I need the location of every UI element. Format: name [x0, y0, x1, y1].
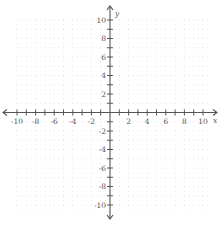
grid-dot: [44, 98, 45, 99]
grid-dot: [119, 56, 120, 57]
grid-dot: [49, 158, 50, 159]
grid-dot: [44, 140, 45, 141]
x-tick-label: 8: [182, 117, 187, 126]
grid-dot: [72, 181, 73, 182]
grid-dot: [156, 89, 157, 90]
grid-dot: [91, 177, 92, 178]
grid-dot: [68, 140, 69, 141]
grid-dot: [142, 84, 143, 85]
grid-dot: [58, 84, 59, 85]
grid-dot: [128, 167, 129, 168]
grid-dot: [119, 167, 120, 168]
grid-dot: [91, 75, 92, 76]
x-tick-label: 4: [145, 117, 150, 126]
grid-dot: [147, 24, 148, 25]
grid-dot: [165, 43, 166, 44]
grid-dot: [96, 103, 97, 104]
grid-dot: [202, 93, 203, 94]
grid-dot: [58, 140, 59, 141]
grid-dot: [100, 47, 101, 48]
grid-dot: [91, 191, 92, 192]
grid-dot: [137, 186, 138, 187]
grid-dot: [58, 131, 59, 132]
grid-dot: [147, 167, 148, 168]
grid-dot: [137, 75, 138, 76]
grid-dot: [72, 107, 73, 108]
grid-dot: [175, 135, 176, 136]
grid-dot: [40, 57, 41, 58]
grid-dot: [82, 130, 83, 131]
grid-dot: [119, 93, 120, 94]
grid-dot: [137, 89, 138, 90]
grid-dot: [184, 98, 185, 99]
grid-dot: [54, 89, 55, 90]
grid-dot: [198, 38, 199, 39]
grid-dot: [193, 33, 194, 34]
grid-dot: [156, 107, 157, 108]
grid-dot: [119, 84, 120, 85]
grid-dot: [63, 140, 64, 141]
coordinate-plane: -10-8-6-4-2246810108642-2-4-6-8-10xy: [0, 0, 222, 225]
grid-dot: [128, 47, 129, 48]
grid-dot: [72, 200, 73, 201]
grid-dot: [44, 38, 45, 39]
grid-dot: [40, 103, 41, 104]
grid-dot: [128, 103, 129, 104]
grid-dot: [82, 191, 83, 192]
grid-dot: [184, 167, 185, 168]
grid-dot: [137, 163, 138, 164]
grid-dot: [82, 19, 83, 20]
grid-dot: [202, 75, 203, 76]
grid-dot: [77, 47, 78, 48]
grid-dot: [40, 47, 41, 48]
grid-dot: [63, 163, 64, 164]
grid-dot: [193, 89, 194, 90]
grid-dot: [170, 131, 171, 132]
grid-dot: [175, 47, 176, 48]
grid-dot: [193, 130, 194, 131]
grid-dot: [82, 163, 83, 164]
grid-dot: [203, 107, 204, 108]
grid-dot: [165, 19, 166, 20]
grid-dot: [82, 186, 83, 187]
grid-dot: [44, 75, 45, 76]
grid-dot: [86, 205, 87, 206]
y-tick-label: -10: [94, 201, 106, 210]
grid-dot: [54, 158, 55, 159]
grid-dot: [142, 94, 143, 95]
grid-dot: [156, 140, 157, 141]
grid-dot: [72, 177, 73, 178]
grid-dot: [161, 140, 162, 141]
grid-dot: [119, 103, 120, 104]
grid-dot: [156, 38, 157, 39]
grid-dot: [35, 186, 36, 187]
grid-dot: [119, 66, 120, 67]
y-tick-label: 6: [101, 53, 106, 62]
grid-dot: [184, 29, 185, 30]
grid-dot: [44, 56, 45, 57]
grid-dot: [189, 84, 190, 85]
grid-dot: [54, 200, 55, 201]
grid-dot: [198, 47, 199, 48]
grid-dot: [72, 89, 73, 90]
grid-dot: [86, 149, 87, 150]
grid-dot: [193, 66, 194, 67]
grid-dot: [54, 163, 55, 164]
grid-dot: [31, 195, 32, 196]
grid-dot: [17, 200, 18, 201]
grid-dot: [35, 103, 36, 104]
grid-dot: [198, 66, 199, 67]
grid-dot: [165, 195, 166, 196]
grid-dot: [82, 56, 83, 57]
grid-dot: [193, 43, 194, 44]
grid-dot: [203, 144, 204, 145]
grid-dot: [179, 20, 180, 21]
grid-dot: [58, 29, 59, 30]
grid-dot: [68, 75, 69, 76]
grid-dot: [184, 93, 185, 94]
grid-dot: [26, 204, 27, 205]
grid-dot: [63, 56, 64, 57]
grid-dot: [31, 140, 32, 141]
grid-dot: [44, 191, 45, 192]
grid-dot: [72, 61, 73, 62]
